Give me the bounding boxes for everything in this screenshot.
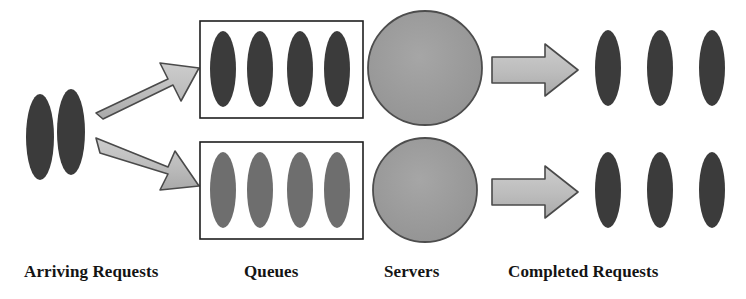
queue-top	[200, 21, 363, 118]
queued-request-ellipse	[210, 31, 236, 107]
queued-request-ellipse	[287, 152, 313, 228]
completed-request-ellipse	[699, 152, 725, 228]
completed-requests-top-row	[595, 30, 725, 106]
arriving-request-ellipse	[26, 94, 54, 180]
queueing-system-diagram: Arriving Requests Queues Servers Complet…	[0, 0, 746, 299]
completed-request-ellipse	[595, 152, 621, 228]
label-arriving-requests: Arriving Requests	[24, 262, 158, 282]
completed-request-ellipse	[647, 30, 673, 106]
queued-request-ellipse	[247, 31, 273, 107]
label-completed-requests: Completed Requests	[508, 262, 659, 282]
completed-request-ellipse	[595, 30, 621, 106]
arriving-request-ellipse	[57, 89, 85, 175]
label-queues: Queues	[244, 262, 298, 282]
inlet-arrow-upper	[96, 63, 199, 119]
outlet-arrow-upper	[492, 44, 578, 96]
queued-request-ellipse	[287, 31, 313, 107]
queued-request-ellipse	[247, 152, 273, 228]
arriving-requests-group	[26, 89, 85, 180]
inlet-arrow-lower	[96, 138, 199, 190]
diagram-canvas	[0, 0, 746, 299]
queued-request-ellipse	[210, 152, 236, 228]
outlet-arrow-lower	[492, 166, 578, 218]
server-circle-bottom	[373, 138, 477, 242]
server-circle-top	[368, 11, 482, 125]
queue-bottom	[200, 142, 363, 239]
completed-requests-bottom-row	[595, 152, 725, 228]
queued-request-ellipse	[324, 31, 350, 107]
queued-request-ellipse	[324, 152, 350, 228]
label-servers: Servers	[384, 262, 439, 282]
completed-request-ellipse	[647, 152, 673, 228]
completed-request-ellipse	[699, 30, 725, 106]
